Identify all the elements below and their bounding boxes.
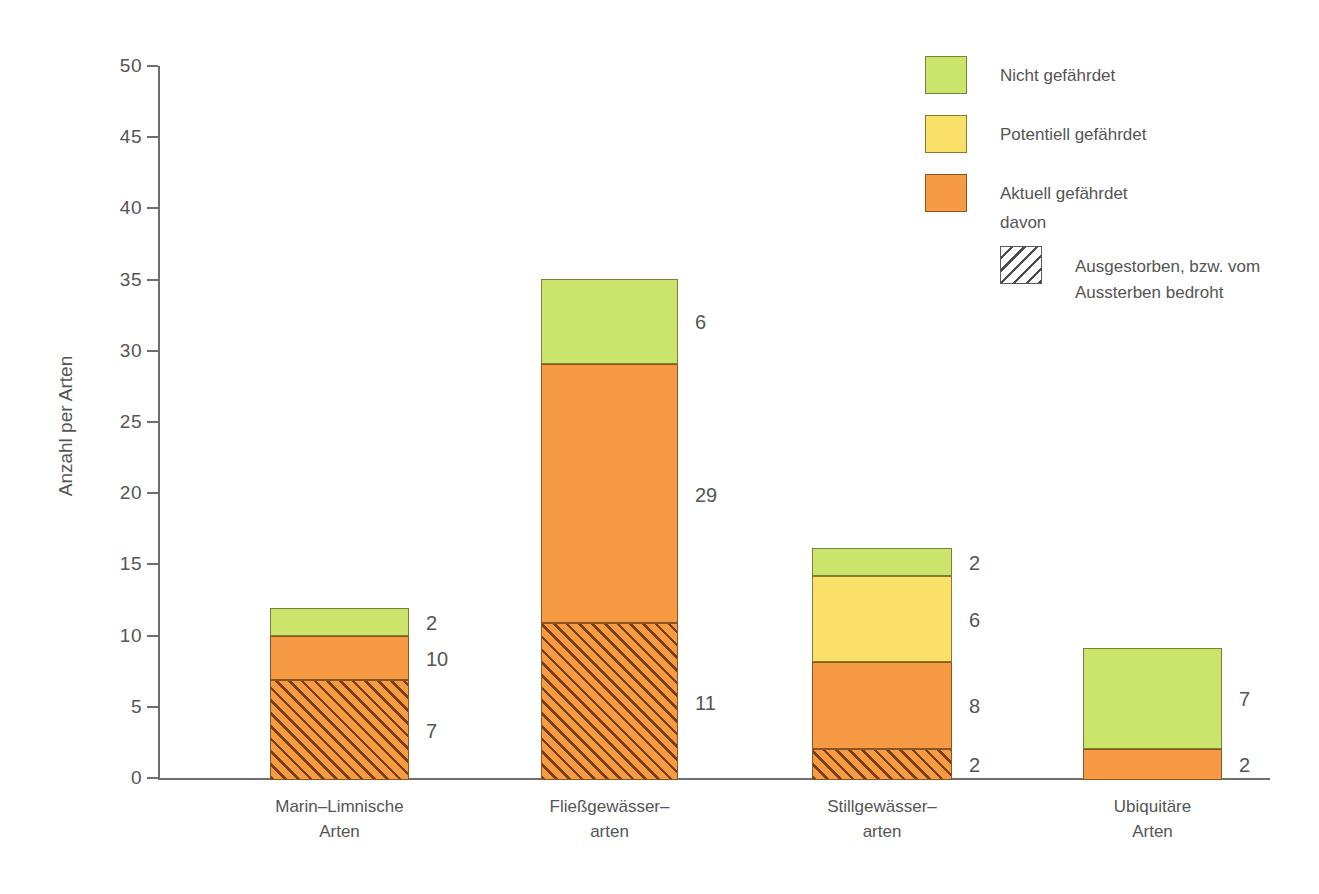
bar-value-label: 2 — [426, 611, 437, 634]
x-axis-category-label-line: Arten — [1043, 820, 1263, 845]
bar-segment-orange[interactable]: 2 — [1083, 749, 1222, 780]
bar-segment-orange-hatched[interactable]: 11 — [541, 623, 678, 780]
y-tick-mark — [147, 65, 158, 67]
bar-stack[interactable]: 2862 — [812, 548, 952, 780]
legend-label-ausgestorben-line1: Ausgestorben, bzw. vom — [1075, 254, 1260, 280]
x-axis-category-label-line: arten — [772, 820, 992, 845]
bar-value-label: 2 — [969, 754, 980, 777]
bar-segment-orange-hatched[interactable]: 2 — [812, 749, 952, 780]
x-axis-category-label-line: Stillgewässer– — [772, 795, 992, 820]
y-tick-mark — [147, 136, 158, 138]
y-tick-mark — [147, 777, 158, 779]
y-axis-title: Anzahl per Arten — [55, 316, 77, 536]
y-axis-line — [158, 66, 160, 780]
legend-item-yellow[interactable]: Potentiell gefährdet — [925, 115, 1147, 153]
bar-value-label: 6 — [969, 609, 980, 632]
bar-value-label: 29 — [695, 483, 717, 506]
x-axis-category-label-line: arten — [500, 820, 720, 845]
x-axis-category-label-line: Marin–Limnische — [230, 795, 450, 820]
y-tick-label: 10 — [82, 625, 142, 647]
y-tick-mark — [147, 279, 158, 281]
y-tick-label: 50 — [82, 55, 142, 77]
bar-value-label: 7 — [426, 720, 437, 743]
y-tick-mark — [147, 563, 158, 565]
bar-segment-orange[interactable]: 29 — [541, 364, 678, 623]
y-tick-mark — [147, 350, 158, 352]
y-tick-label: 45 — [82, 126, 142, 148]
legend-swatch-yellow — [925, 115, 967, 153]
x-axis-category-label-line: Fließgewässer– — [500, 795, 720, 820]
bar-stack[interactable]: 11296 — [541, 279, 678, 780]
legend-item-ausgestorben: Ausgestorben, bzw. vom Aussterben bedroh… — [1000, 246, 1260, 305]
x-axis-category-label: Stillgewässer–arten — [772, 795, 992, 844]
bar-stack[interactable]: 27 — [1083, 648, 1222, 780]
bar-segment-green[interactable]: 2 — [812, 548, 952, 576]
bar-value-label: 11 — [695, 691, 716, 714]
bar-segment-orange[interactable]: 10 — [270, 636, 409, 680]
y-tick-label: 25 — [82, 411, 142, 433]
legend-label-ausgestorben: Ausgestorben, bzw. vom Aussterben bedroh… — [1075, 246, 1260, 305]
legend-swatch-hatched — [1000, 246, 1042, 284]
bar-value-label: 10 — [426, 648, 448, 671]
bar-segment-yellow[interactable]: 6 — [812, 576, 952, 661]
legend-swatch-orange — [925, 174, 967, 212]
x-axis-category-label-line: Arten — [230, 820, 450, 845]
x-axis-category-label: Fließgewässer–arten — [500, 795, 720, 844]
y-tick-label: 15 — [82, 553, 142, 575]
bar-segment-green[interactable]: 2 — [270, 608, 409, 636]
y-tick-label: 5 — [82, 696, 142, 718]
x-axis-category-label: UbiquitäreArten — [1043, 795, 1263, 844]
y-tick-mark — [147, 635, 158, 637]
bar-segment-green[interactable]: 7 — [1083, 648, 1222, 749]
y-tick-mark — [147, 706, 158, 708]
bar-value-label: 2 — [1239, 754, 1250, 777]
x-axis-category-label: Marin–LimnischeArten — [230, 795, 450, 844]
y-tick-mark — [147, 421, 158, 423]
bar-value-label: 7 — [1239, 688, 1250, 711]
legend-label: Nicht gefährdet — [1000, 56, 1115, 89]
y-tick-label: 0 — [82, 767, 142, 789]
bar-segment-orange[interactable]: 8 — [812, 662, 952, 749]
bar-value-label: 6 — [695, 311, 706, 334]
legend-item-orange[interactable]: Aktuell gefährdet — [925, 174, 1128, 212]
bar-chart: Anzahl per Arten 50454035302520151050 71… — [0, 0, 1319, 894]
y-tick-mark — [147, 207, 158, 209]
y-tick-mark — [147, 492, 158, 494]
bar-value-label: 2 — [969, 552, 980, 575]
legend-label: Aktuell gefährdet — [1000, 174, 1128, 207]
x-axis-category-label-line: Ubiquitäre — [1043, 795, 1263, 820]
legend-davon-label: davon — [1000, 213, 1046, 233]
legend-label: Potentiell gefährdet — [1000, 115, 1147, 148]
bar-value-label: 8 — [969, 695, 980, 718]
legend-item-green[interactable]: Nicht gefährdet — [925, 56, 1115, 94]
bar-stack[interactable]: 7102 — [270, 608, 409, 780]
legend-swatch-green — [925, 56, 967, 94]
bar-segment-green[interactable]: 6 — [541, 279, 678, 364]
bar-segment-orange-hatched[interactable]: 7 — [270, 680, 409, 780]
y-tick-label: 40 — [82, 197, 142, 219]
y-tick-label: 30 — [82, 340, 142, 362]
legend-label-ausgestorben-line2: Aussterben bedroht — [1075, 280, 1260, 306]
y-tick-label: 20 — [82, 482, 142, 504]
y-tick-label: 35 — [82, 269, 142, 291]
